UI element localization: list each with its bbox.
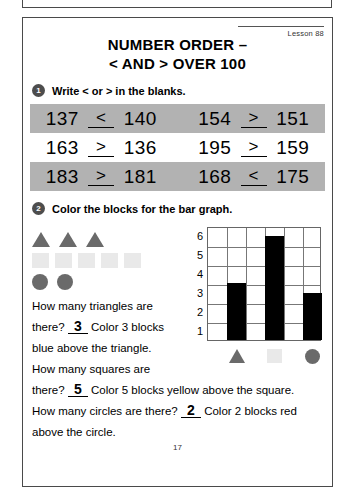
lesson-label: Lesson 88 — [238, 29, 324, 38]
comparison-left-number: 168 — [198, 166, 232, 188]
category-marker-circle — [305, 349, 320, 364]
square-question-line2: there? 5 Color 5 blocks yellow above the… — [32, 380, 323, 401]
comparison-right-number: 151 — [276, 108, 310, 130]
circle-group — [32, 271, 191, 292]
comparison-left-number: 183 — [45, 166, 79, 188]
square-question-instruction: Color 5 blocks yellow above the square. — [91, 384, 294, 396]
category-marker-square — [267, 349, 282, 363]
y-axis-tick: 4 — [193, 265, 203, 284]
lesson-header: Lesson 88 — [238, 26, 324, 38]
comparison-row: 183 > 181 168 < 175 — [30, 162, 325, 191]
page-title-line1: NUMBER ORDER – — [108, 36, 247, 53]
step-number-badge: 2 — [32, 202, 45, 215]
y-axis-tick: 3 — [193, 284, 203, 303]
triangle-icon — [32, 232, 50, 247]
triangle-group — [32, 229, 191, 250]
square-icon — [101, 253, 118, 268]
comparison-answer-blank[interactable]: < — [241, 167, 267, 186]
comparison-problem: 183 > 181 — [30, 162, 173, 191]
step-number-badge: 1 — [32, 84, 45, 97]
bar-square — [265, 236, 284, 341]
category-marker-triangle — [229, 349, 245, 363]
triangle-question-prompt: there? — [32, 321, 65, 333]
comparison-answer-blank[interactable]: > — [88, 167, 114, 186]
square-icon — [78, 253, 95, 268]
section-2-instruction: Color the blocks for the bar graph. — [52, 203, 232, 215]
comparison-row: 163 > 136 195 > 159 — [30, 133, 325, 162]
circle-question-line1: How many circles are there? 2 Color 2 bl… — [32, 401, 323, 422]
bar-graph: 6 5 4 3 2 1 — [193, 227, 321, 341]
comparison-right-number: 136 — [123, 137, 157, 159]
y-axis-tick: 2 — [193, 303, 203, 322]
lesson-divider — [238, 26, 324, 27]
triangle-question-instruction: Color 3 blocks — [91, 321, 164, 333]
triangle-question-line1: How many triangles are — [32, 296, 191, 317]
grid-line-horizontal — [208, 247, 320, 248]
comparison-answer-blank[interactable]: > — [241, 109, 267, 128]
square-group — [32, 250, 191, 271]
triangle-icon — [86, 232, 104, 247]
square-icon — [267, 349, 282, 363]
comparison-row: 137 < 140 154 > 151 — [30, 104, 325, 133]
triangle-question: How many triangles are there? 3 Color 3 … — [32, 296, 191, 380]
comparison-right-number: 140 — [123, 108, 157, 130]
y-axis-tick: 1 — [193, 322, 203, 341]
square-question-line1: How many squares are — [32, 359, 191, 380]
comparison-answer-blank[interactable]: > — [241, 138, 267, 157]
shape-key — [32, 229, 191, 292]
comparison-answer-blank[interactable]: > — [88, 138, 114, 157]
previous-page-edge — [22, 0, 332, 8]
y-axis-tick: 5 — [193, 246, 203, 265]
triangle-icon — [229, 349, 245, 363]
square-icon — [55, 253, 72, 268]
square-icon — [124, 253, 141, 268]
comparison-answer-blank[interactable]: < — [88, 109, 114, 128]
page-number: 17 — [23, 443, 332, 452]
comparison-left-number: 195 — [198, 137, 232, 159]
square-question: there? 5 Color 5 blocks yellow above the… — [23, 380, 332, 443]
circle-icon — [32, 274, 48, 290]
comparison-left-number: 163 — [45, 137, 79, 159]
y-axis-labels: 6 5 4 3 2 1 — [193, 227, 203, 341]
comparison-problem: 168 < 175 — [183, 162, 326, 191]
triangle-answer-blank[interactable]: 3 — [68, 319, 88, 334]
shape-key-and-questions: How many triangles are there? 3 Color 3 … — [23, 224, 191, 380]
section-1-heading: 1 Write < or > in the blanks. — [32, 84, 332, 97]
comparison-right-number: 159 — [276, 137, 310, 159]
square-question-prompt: there? — [32, 384, 65, 396]
triangle-question-line2: there? 3 Color 3 blocks — [32, 317, 191, 338]
circle-icon — [57, 274, 73, 290]
comparison-problem: 163 > 136 — [30, 133, 173, 162]
comparison-problem: 195 > 159 — [183, 133, 326, 162]
page-title: NUMBER ORDER – < AND > OVER 100 — [23, 35, 332, 73]
bar-graph-grid — [207, 227, 321, 341]
section-2-heading: 2 Color the blocks for the bar graph. — [32, 202, 332, 215]
square-icon — [32, 253, 49, 268]
circle-question-prompt: How many circles are there? — [32, 405, 178, 417]
circle-icon — [305, 349, 320, 364]
circle-answer-blank[interactable]: 2 — [181, 403, 201, 418]
comparison-problem: 154 > 151 — [183, 104, 326, 133]
circle-question-line2: above the circle. — [32, 422, 323, 443]
worksheet-page: Lesson 88 NUMBER ORDER – < AND > OVER 10… — [22, 17, 333, 487]
page-title-line2: < AND > OVER 100 — [23, 54, 332, 73]
comparison-right-number: 181 — [123, 166, 157, 188]
triangle-icon — [59, 232, 77, 247]
section-1-instruction: Write < or > in the blanks. — [52, 85, 186, 97]
comparison-left-number: 154 — [198, 108, 232, 130]
circle-question-instruction: Color 2 blocks red — [204, 405, 297, 417]
bar-triangle — [227, 283, 246, 340]
grid-line-horizontal — [208, 266, 320, 267]
bar-graph-area: 6 5 4 3 2 1 — [191, 224, 332, 380]
category-axis — [208, 347, 322, 369]
comparison-exercises: 137 < 140 154 > 151 163 > 136 195 > 159 — [30, 104, 325, 191]
square-answer-blank[interactable]: 5 — [68, 382, 88, 397]
comparison-right-number: 175 — [276, 166, 310, 188]
y-axis-tick: 6 — [193, 227, 203, 246]
comparison-problem: 137 < 140 — [30, 104, 173, 133]
triangle-question-line3: blue above the triangle. — [32, 338, 191, 359]
comparison-left-number: 137 — [45, 108, 79, 130]
grid-line-horizontal — [208, 285, 320, 286]
section-2-body: How many triangles are there? 3 Color 3 … — [23, 224, 332, 380]
bar-circle — [303, 293, 322, 341]
